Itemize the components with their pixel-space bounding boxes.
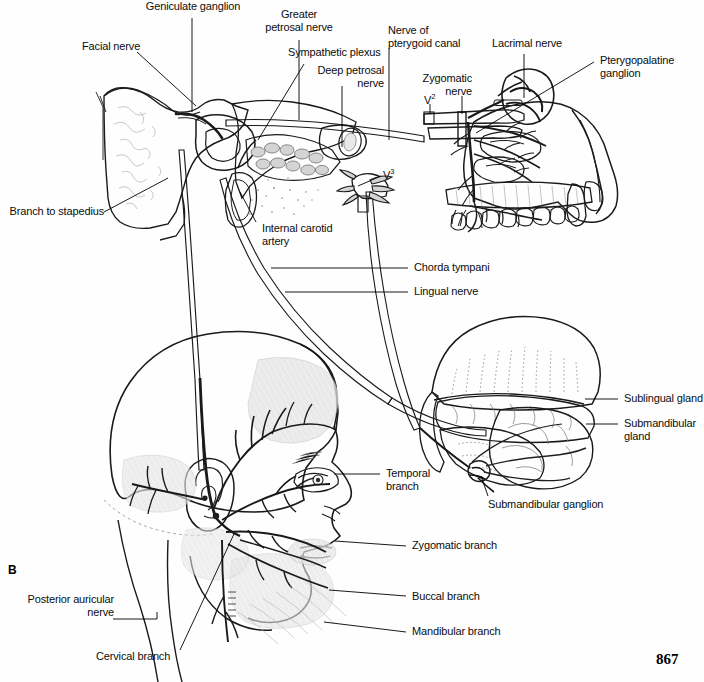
panel-label-b: B <box>8 563 17 577</box>
label-greater-petrosal-nerve: Greater petrosal nerve <box>249 8 349 33</box>
label-nerve-of-pterygoid-canal: Nerve of pterygoid canal <box>388 24 460 49</box>
label-v3-superscript: 3 <box>390 167 394 176</box>
label-internal-carotid-artery: Internal carotid artery <box>262 222 332 247</box>
label-lingual-nerve: Lingual nerve <box>414 285 478 298</box>
label-v2-superscript: 2 <box>431 92 435 101</box>
head-profile-section <box>104 332 351 682</box>
label-sublingual-gland: Sublingual gland <box>624 392 703 405</box>
page-number: 867 <box>656 651 679 668</box>
label-mandibular-branch: Mandibular branch <box>412 625 501 638</box>
pterygopalatine-ganglion-mass <box>502 69 554 124</box>
label-pterygopalatine-ganglion: Pterygopalatine ganglion <box>600 54 674 79</box>
label-cervical-branch: Cervical branch <box>96 650 170 663</box>
label-lacrimal-nerve: Lacrimal nerve <box>492 37 562 50</box>
anatomical-artwork <box>0 0 704 682</box>
label-geniculate-ganglion: Geniculate ganglion <box>136 0 250 13</box>
label-zygomatic-nerve: Zygomatic nerve <box>410 72 472 97</box>
label-zygomatic-branch: Zygomatic branch <box>412 539 497 552</box>
label-sympathetic-plexus: Sympathetic plexus <box>288 46 381 59</box>
label-branch-to-stapedius: Branch to stapedius <box>4 205 104 218</box>
label-deep-petrosal-nerve: Deep petrosal nerve <box>288 64 384 89</box>
label-posterior-auricular-nerve: Posterior auricular nerve <box>6 593 114 618</box>
label-facial-nerve: Facial nerve <box>82 40 140 53</box>
label-v3: V3 <box>383 166 394 181</box>
label-v2: V2 <box>424 91 435 106</box>
figure-page: Geniculate ganglion Facial nerve Greater… <box>0 0 704 682</box>
label-submandibular-ganglion: Submandibular ganglion <box>488 498 603 511</box>
label-submandibular-gland: Submandibular gland <box>624 417 696 442</box>
label-chorda-tympani: Chorda tympani <box>414 261 490 274</box>
label-temporal-branch: Temporal branch <box>386 467 430 492</box>
salivary-glands-section <box>420 317 601 493</box>
label-buccal-branch: Buccal branch <box>412 590 480 603</box>
